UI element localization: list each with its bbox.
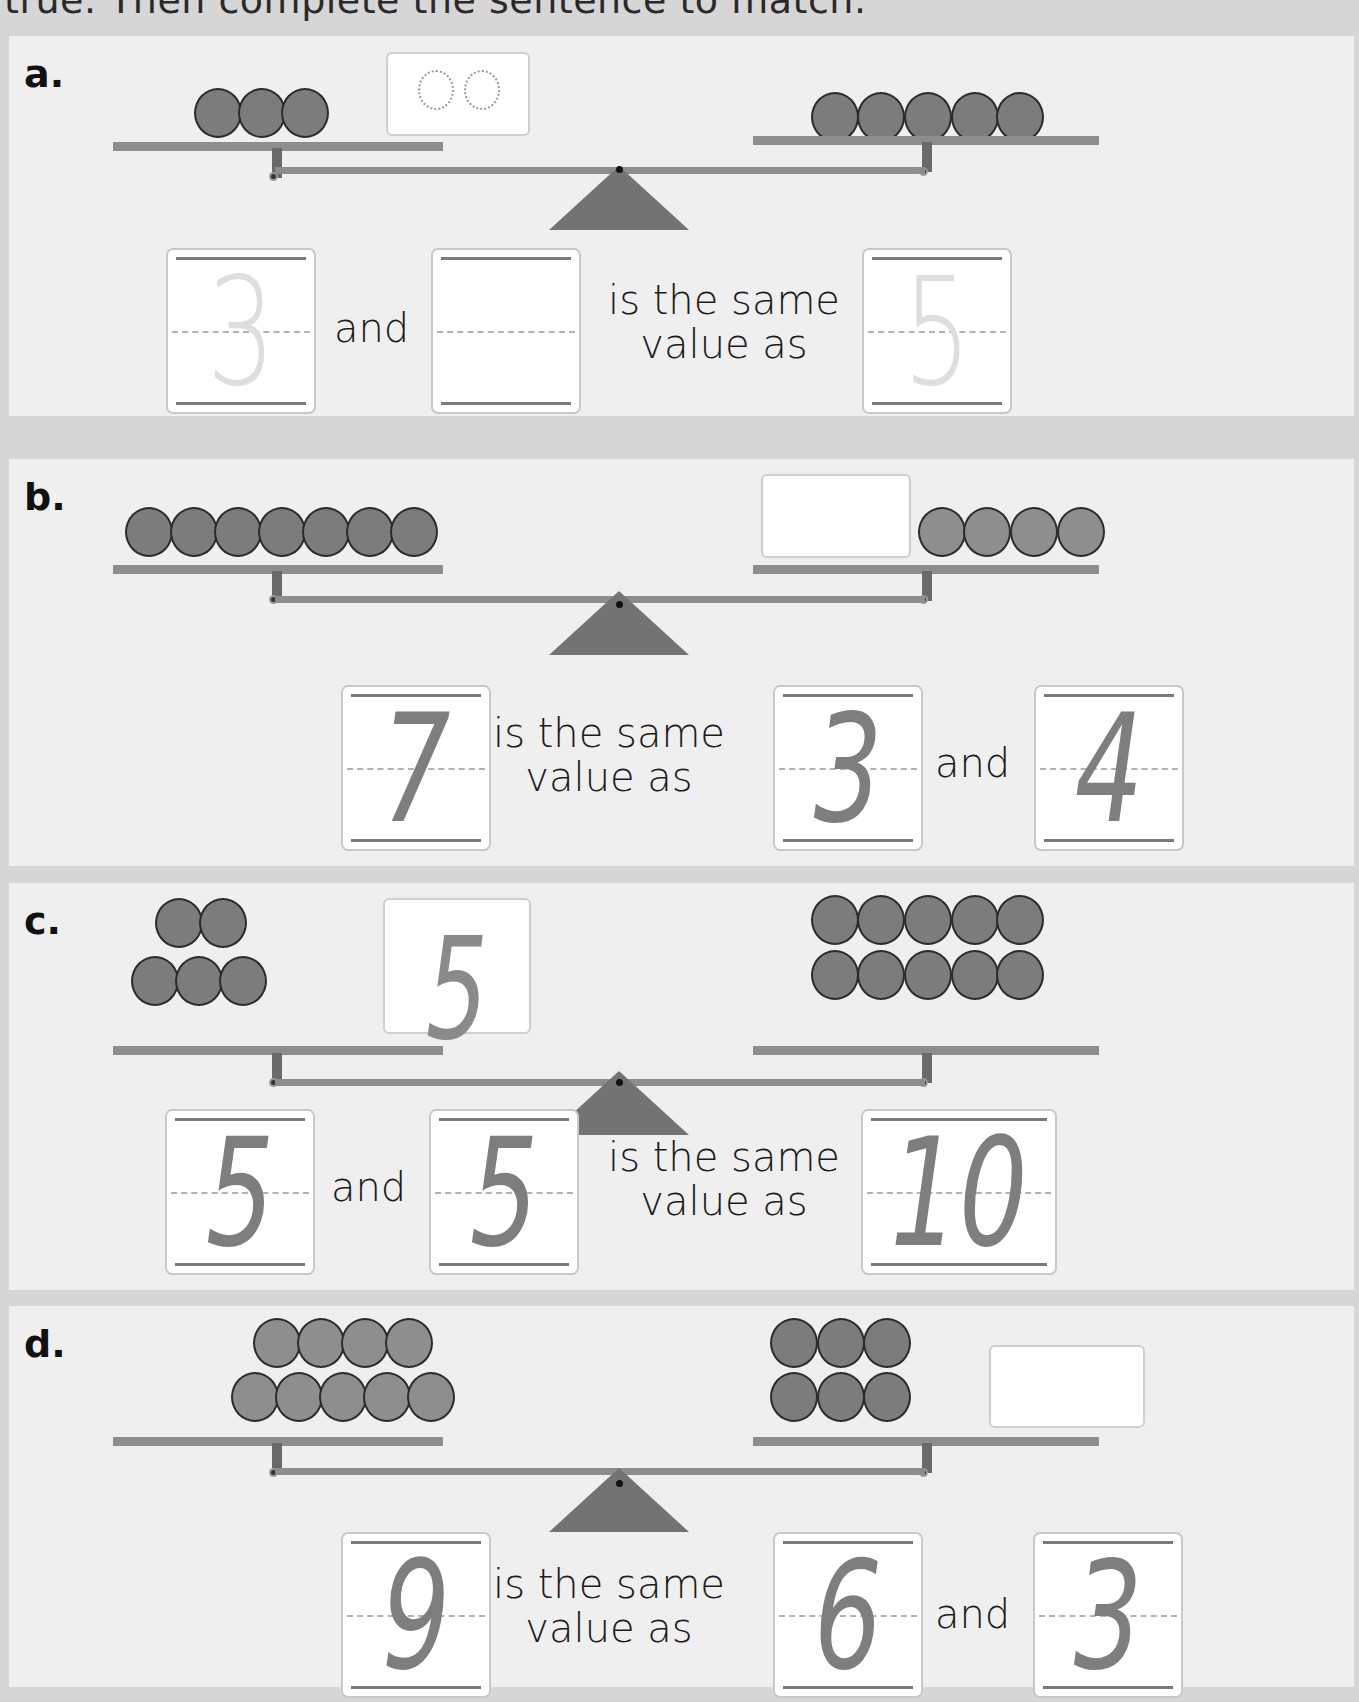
word-same-value-line1: is the same: [594, 278, 854, 322]
written-digit: 9: [363, 1536, 468, 1696]
counter: [1010, 507, 1058, 557]
word-and: and: [334, 306, 409, 350]
problem-label: a.: [24, 52, 64, 96]
problem-c: c. 5 5 and 5 is the same value as 10: [9, 883, 1354, 1290]
answer-box-1[interactable]: 9: [341, 1532, 491, 1698]
answer-box-2[interactable]: 5: [429, 1109, 579, 1275]
counter: [231, 1372, 279, 1422]
problem-a: a. 3 and is the same value as 5: [9, 36, 1354, 416]
counter: [951, 895, 999, 945]
word-and: and: [331, 1165, 406, 1209]
counter: [214, 507, 262, 557]
dotted-counter-icon: [418, 70, 454, 110]
right-weight-box[interactable]: [989, 1345, 1145, 1428]
problem-label: d.: [24, 1322, 66, 1366]
counter: [817, 1372, 865, 1422]
problem-d: d. 9 is the same value as 6 and 3: [9, 1306, 1354, 1687]
problem-label: b.: [24, 475, 66, 519]
counter: [811, 895, 859, 945]
right-weight-box[interactable]: [761, 474, 911, 558]
instruction-text: true. Then complete the sentence to matc…: [4, 0, 866, 22]
counter: [904, 950, 952, 1000]
counter: [363, 1372, 411, 1422]
fulcrum-pivot: [616, 166, 623, 173]
counter: [319, 1372, 367, 1422]
counter: [996, 950, 1044, 1000]
answer-box-1[interactable]: 7: [341, 685, 491, 851]
word-same-value-line2: value as: [594, 322, 854, 366]
written-digit: 3: [795, 689, 900, 849]
counter: [996, 92, 1044, 142]
counter: [194, 88, 242, 138]
problem-label: c.: [24, 899, 61, 943]
counter: [857, 895, 905, 945]
counter: [302, 507, 350, 557]
answer-box-3[interactable]: 3: [1033, 1532, 1183, 1698]
problem-b: b. 7 is the same value as 3 and 4: [9, 459, 1354, 866]
counter: [297, 1318, 345, 1368]
written-digit: 6: [795, 1536, 900, 1696]
counter: [857, 92, 905, 142]
word-same-value-line2: value as: [489, 1606, 729, 1650]
counter: [811, 92, 859, 142]
counter: [904, 92, 952, 142]
word-and: and: [935, 1592, 1010, 1636]
counter: [857, 950, 905, 1000]
counter: [996, 895, 1044, 945]
counter: [125, 507, 173, 557]
written-digit: 5: [451, 1113, 556, 1273]
answer-box-1[interactable]: 3: [166, 248, 316, 414]
word-same-value-line2: value as: [489, 755, 729, 799]
counter: [219, 956, 267, 1006]
left-weight-box[interactable]: [386, 52, 530, 136]
counter: [770, 1372, 818, 1422]
written-digit: 4: [1056, 689, 1161, 849]
answer-box-1[interactable]: 5: [165, 1109, 315, 1275]
counter: [258, 507, 306, 557]
word-same-value-line2: value as: [594, 1179, 854, 1223]
counter: [175, 956, 223, 1006]
written-digit: 5: [187, 1113, 292, 1273]
answer-box-3[interactable]: 10: [861, 1109, 1057, 1275]
traced-digit: 5: [884, 252, 989, 412]
left-weight-box[interactable]: 5: [383, 898, 531, 1034]
counter: [1057, 507, 1105, 557]
counter: [253, 1318, 301, 1368]
written-digit: 10: [890, 1113, 1028, 1273]
counter: [407, 1372, 455, 1422]
counter: [155, 898, 203, 948]
counter: [346, 507, 394, 557]
fulcrum-pivot: [616, 1480, 623, 1487]
answer-box-2[interactable]: [431, 248, 581, 414]
dotted-counter-icon: [464, 70, 500, 110]
word-and: and: [935, 741, 1010, 785]
counter: [904, 895, 952, 945]
answer-box-3[interactable]: 4: [1034, 685, 1184, 851]
counter: [341, 1318, 389, 1368]
answer-box-3[interactable]: 5: [862, 248, 1012, 414]
counter: [863, 1372, 911, 1422]
counter: [385, 1318, 433, 1368]
counter: [951, 950, 999, 1000]
word-same-value-line1: is the same: [489, 711, 729, 755]
counter: [281, 88, 329, 138]
answer-box-2[interactable]: 3: [773, 685, 923, 851]
answer-box-2[interactable]: 6: [773, 1532, 923, 1698]
traced-digit: 3: [188, 252, 293, 412]
fulcrum-pivot: [616, 1079, 623, 1086]
counter: [811, 950, 859, 1000]
counter: [390, 507, 438, 557]
counter: [275, 1372, 323, 1422]
counter: [131, 956, 179, 1006]
counter: [199, 898, 247, 948]
counter: [963, 507, 1011, 557]
counter: [951, 92, 999, 142]
word-same-value-line1: is the same: [489, 1562, 729, 1606]
counter: [238, 88, 286, 138]
counter: [170, 507, 218, 557]
written-digit: 5: [407, 920, 508, 1060]
fulcrum-triangle-icon: [549, 166, 689, 230]
counter: [918, 507, 966, 557]
counter: [770, 1318, 818, 1368]
counter: [817, 1318, 865, 1368]
